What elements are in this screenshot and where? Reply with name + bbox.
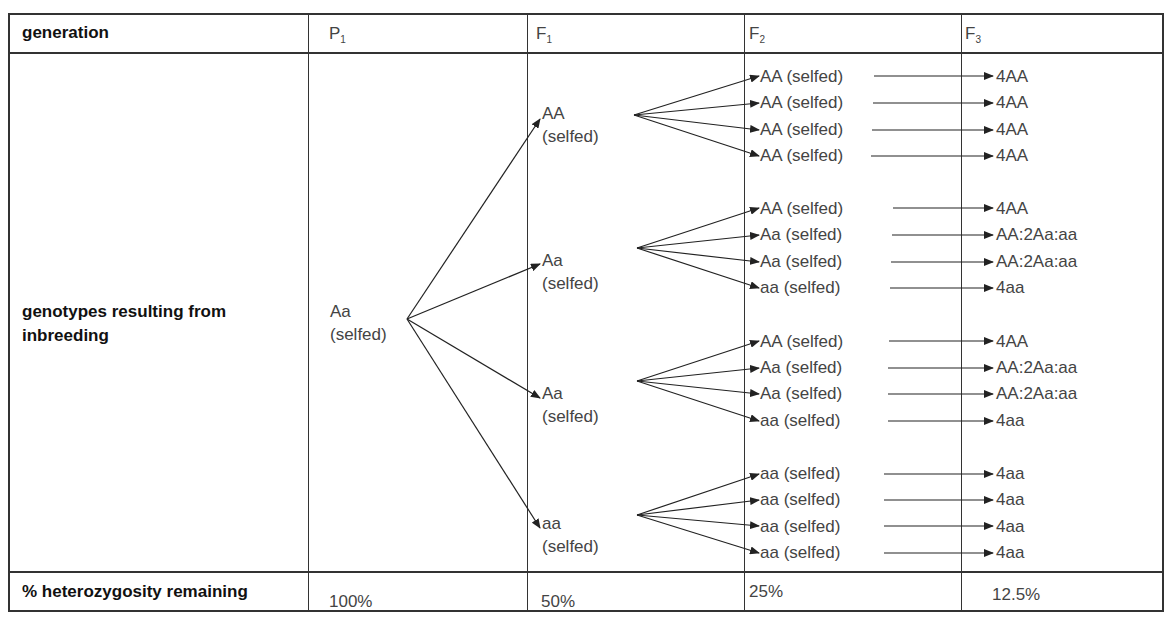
- inheritance-arrows: [0, 0, 1168, 619]
- heterozygosity-p1: 100%: [329, 590, 372, 615]
- heterozygosity-f1: 50%: [541, 590, 575, 615]
- heterozygosity-label: % heterozygosity remaining: [22, 580, 248, 605]
- heterozygosity-f2: 25%: [749, 580, 783, 605]
- heterozygosity-f3: 12.5%: [992, 583, 1040, 608]
